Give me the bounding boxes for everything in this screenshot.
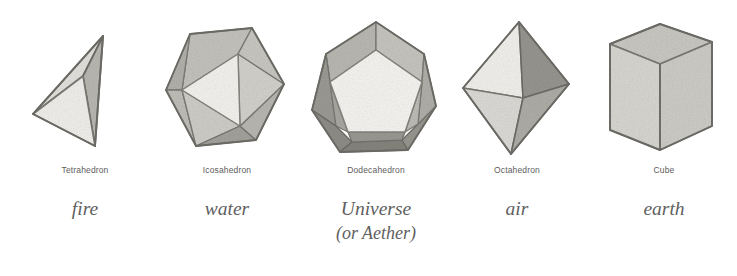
solid-caption-dodecahedron: Dodecahedron [298, 165, 454, 175]
dodecahedron-illustration [298, 14, 454, 162]
tetrahedron-illustration [10, 14, 160, 162]
platonic-solids-figure: Tetrahedron fire [0, 0, 737, 276]
octahedron-svg [457, 14, 577, 162]
element-label-air-line1: air [506, 198, 529, 219]
element-label-air: air [444, 196, 590, 222]
solid-column-dodecahedron: Dodecahedron Universe (or Aether) [298, 0, 454, 276]
solid-column-icosahedron: Icosahedron water [152, 0, 302, 276]
octahedron-illustration [444, 14, 590, 162]
solid-caption-octahedron: Octahedron [444, 165, 590, 175]
cube-svg [602, 14, 726, 162]
solid-caption-cube: Cube [588, 165, 737, 175]
tetrahedron-svg [25, 14, 145, 162]
icosahedron-svg [160, 14, 294, 162]
dodecahedron-svg [306, 14, 446, 162]
element-label-earth-line1: earth [643, 198, 684, 219]
icosahedron-illustration [152, 14, 302, 162]
element-label-water-line1: water [205, 198, 249, 219]
solid-column-cube: Cube earth [588, 0, 737, 276]
element-label-fire: fire [10, 196, 160, 222]
solid-column-tetrahedron: Tetrahedron fire [10, 0, 160, 276]
element-label-fire-line1: fire [72, 198, 98, 219]
solid-caption-icosahedron: Icosahedron [152, 165, 302, 175]
solid-caption-tetrahedron: Tetrahedron [10, 165, 160, 175]
element-label-earth: earth [588, 196, 737, 222]
element-label-universe-line2: (or Aether) [298, 222, 454, 246]
solid-column-octahedron: Octahedron air [444, 0, 590, 276]
element-label-water: water [152, 196, 302, 222]
cube-illustration [588, 14, 737, 162]
element-label-universe-line1: Universe [341, 198, 411, 219]
element-label-universe: Universe (or Aether) [298, 196, 454, 245]
